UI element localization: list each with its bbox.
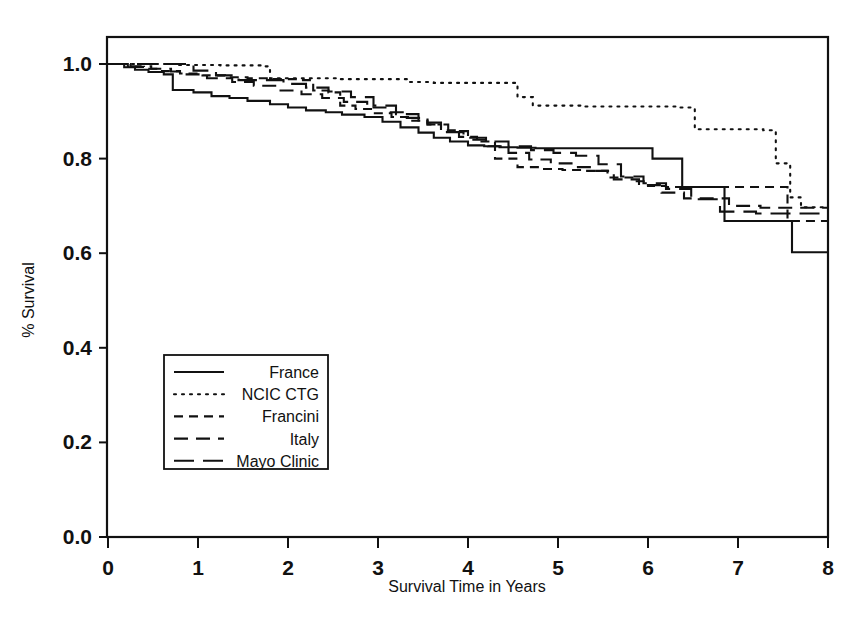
y-tick-label: 0.8	[63, 147, 93, 170]
x-tick-label: 4	[462, 556, 474, 579]
x-tick-label: 1	[192, 556, 204, 579]
legend-label-italy: Italy	[290, 431, 319, 448]
x-tick-label: 6	[642, 556, 654, 579]
x-tick-label: 0	[102, 556, 114, 579]
x-tick-label: 8	[822, 556, 834, 579]
legend: FranceNCIC CTGFranciniItalyMayo Clinic	[164, 355, 328, 470]
y-tick-label: 0.6	[63, 241, 92, 264]
x-axis-tick-labels: 012345678	[102, 556, 834, 579]
x-tick-label: 5	[552, 556, 564, 579]
y-tick-label: 0.0	[63, 525, 92, 548]
y-tick-label: 1.0	[63, 52, 92, 75]
y-axis-tick-labels: 0.00.20.40.60.81.0	[63, 52, 93, 548]
survival-chart-figure: 0.00.20.40.60.81.0 012345678 Survival Ti…	[0, 0, 865, 633]
x-axis-title: Survival Time in Years	[388, 578, 545, 595]
y-axis-title: % Survival	[20, 262, 37, 338]
series-line-france	[108, 64, 828, 252]
x-tick-label: 3	[372, 556, 384, 579]
legend-label-ncic-ctg: NCIC CTG	[242, 386, 319, 403]
series-line-mayo-clinic	[108, 64, 828, 213]
legend-label-mayo-clinic: Mayo Clinic	[236, 453, 319, 470]
legend-label-france: France	[269, 364, 319, 381]
x-axis-ticks	[108, 537, 828, 548]
legend-label-francini: Francini	[262, 408, 319, 425]
plot-canvas: 0.00.20.40.60.81.0 012345678 Survival Ti…	[0, 0, 865, 633]
y-tick-label: 0.2	[63, 430, 92, 453]
x-tick-label: 7	[732, 556, 744, 579]
y-tick-label: 0.4	[63, 336, 93, 359]
data-series-layer	[108, 64, 828, 252]
x-tick-label: 2	[282, 556, 294, 579]
